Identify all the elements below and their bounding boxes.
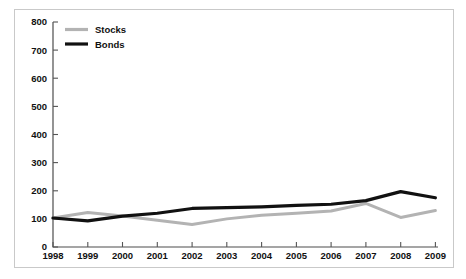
x-tick-label: 2007 <box>355 250 376 261</box>
x-tick-marks <box>53 242 435 247</box>
y-tick-label: 700 <box>31 45 47 56</box>
x-tick-label: 2009 <box>425 250 446 261</box>
y-tick-label: 400 <box>31 129 47 140</box>
x-tick-label: 1998 <box>42 250 63 261</box>
chart-figure: 0 100 200 300 400 500 600 700 800 <box>0 0 466 279</box>
y-tick-label: 300 <box>31 157 47 168</box>
y-tick-label: 200 <box>31 185 47 196</box>
x-tick-label: 2008 <box>390 250 411 261</box>
y-tick-label: 500 <box>31 101 47 112</box>
line-chart: 0 100 200 300 400 500 600 700 800 <box>0 0 466 279</box>
y-tick-label: 100 <box>31 213 47 224</box>
legend-label-bonds: Bonds <box>95 39 125 50</box>
chart-legend: Stocks Bonds <box>65 24 126 50</box>
x-tick-label: 2002 <box>182 250 203 261</box>
x-tick-label: 2004 <box>251 250 273 261</box>
axis-spines <box>53 22 438 247</box>
y-tick-marks <box>53 22 58 247</box>
x-tick-label: 2001 <box>147 250 169 261</box>
x-tick-label: 2005 <box>286 250 308 261</box>
x-tick-label: 1999 <box>77 250 98 261</box>
x-axis-labels: 1998 1999 2000 2001 2002 2003 2004 2005 … <box>42 250 446 261</box>
x-tick-label: 2006 <box>321 250 342 261</box>
legend-label-stocks: Stocks <box>95 24 126 35</box>
y-tick-label: 800 <box>31 16 47 27</box>
y-tick-label: 600 <box>31 73 47 84</box>
x-tick-label: 2003 <box>216 250 237 261</box>
y-axis-labels: 0 100 200 300 400 500 600 700 800 <box>31 16 47 252</box>
x-tick-label: 2000 <box>112 250 133 261</box>
